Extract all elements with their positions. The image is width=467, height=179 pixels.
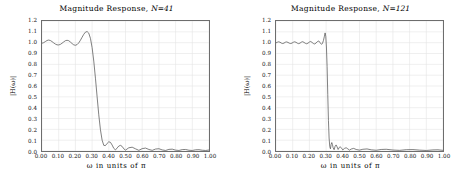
- y-tick-label: 0.2: [28, 127, 37, 133]
- chart-title-left: Magnitude Response, N=41: [0, 4, 233, 13]
- x-tick-label: 0.90: [421, 153, 433, 159]
- y-tick-label: 0.1: [28, 138, 37, 144]
- y-tick-label: 0.2: [262, 127, 271, 133]
- curve-left: [42, 21, 209, 151]
- x-tick-label: 0.50: [353, 153, 365, 159]
- x-tick-label: 0.70: [387, 153, 399, 159]
- x-axis-title-right: ω in units of π: [234, 162, 467, 170]
- x-tick-label: 0.00: [35, 153, 47, 159]
- x-tick-label: 0.30: [85, 153, 97, 159]
- chart-title-left-text: Magnitude Response,: [59, 4, 151, 13]
- x-tick-label: 0.10: [52, 153, 64, 159]
- y-tick-labels-left: 0.00.10.20.30.40.50.60.70.80.91.01.11.2: [14, 20, 39, 152]
- y-tick-labels-right: 0.00.10.20.30.40.50.60.70.80.91.01.11.2: [248, 20, 273, 152]
- chart-title-right: Magnitude Response, N=121: [234, 4, 467, 13]
- x-tick-label: 0.00: [269, 153, 281, 159]
- x-tick-label: 0.80: [404, 153, 416, 159]
- x-tick-label: 1.00: [204, 153, 216, 159]
- plot-area-right: [275, 20, 444, 152]
- y-tick-label: 1.1: [262, 28, 271, 34]
- y-tick-label: 0.8: [28, 61, 37, 67]
- y-axis-title-left: |H(ω)|: [9, 76, 17, 96]
- chart-title-right-param: N=121: [383, 4, 410, 13]
- y-tick-label: 0.4: [262, 105, 271, 111]
- y-tick-label: 0.6: [28, 83, 37, 89]
- chart-panel-left: Magnitude Response, N=41 0.00.10.20.30.4…: [0, 0, 233, 179]
- y-tick-label: 0.7: [262, 72, 271, 78]
- x-tick-label: 0.90: [187, 153, 199, 159]
- x-tick-label: 0.70: [153, 153, 165, 159]
- y-tick-label: 0.5: [28, 94, 37, 100]
- x-tick-label: 0.50: [119, 153, 131, 159]
- chart-title-right-text: Magnitude Response,: [291, 4, 383, 13]
- y-tick-label: 0.9: [28, 50, 37, 56]
- y-tick-label: 0.1: [262, 138, 271, 144]
- y-tick-label: 1.0: [262, 39, 271, 45]
- x-tick-label: 0.80: [170, 153, 182, 159]
- x-tick-label: 0.20: [303, 153, 315, 159]
- x-tick-label: 0.60: [136, 153, 148, 159]
- y-axis-title-right: |H(ω)|: [243, 76, 251, 96]
- x-tick-label: 1.00: [438, 153, 450, 159]
- y-tick-label: 1.0: [28, 39, 37, 45]
- y-tick-label: 0.6: [262, 83, 271, 89]
- x-tick-label: 0.30: [319, 153, 331, 159]
- y-tick-label: 1.2: [28, 17, 37, 23]
- y-tick-label: 0.5: [262, 94, 271, 100]
- chart-title-left-param: N=41: [151, 4, 173, 13]
- x-tick-label: 0.40: [336, 153, 348, 159]
- y-tick-label: 1.1: [28, 28, 37, 34]
- curve-right: [276, 21, 443, 151]
- figure-magnitude-responses: Magnitude Response, N=41 0.00.10.20.30.4…: [0, 0, 467, 179]
- y-tick-label: 0.8: [262, 61, 271, 67]
- y-tick-label: 0.3: [262, 116, 271, 122]
- x-axis-title-left: ω in units of π: [0, 162, 233, 170]
- y-tick-label: 0.4: [28, 105, 37, 111]
- y-tick-label: 0.9: [262, 50, 271, 56]
- x-tick-label: 0.60: [370, 153, 382, 159]
- plot-area-left: [41, 20, 210, 152]
- x-tick-label: 0.40: [102, 153, 114, 159]
- chart-panel-right: Magnitude Response, N=121 0.00.10.20.30.…: [234, 0, 467, 179]
- y-tick-label: 0.3: [28, 116, 37, 122]
- y-tick-label: 1.2: [262, 17, 271, 23]
- y-tick-label: 0.7: [28, 72, 37, 78]
- x-tick-label: 0.20: [69, 153, 81, 159]
- x-tick-label: 0.10: [286, 153, 298, 159]
